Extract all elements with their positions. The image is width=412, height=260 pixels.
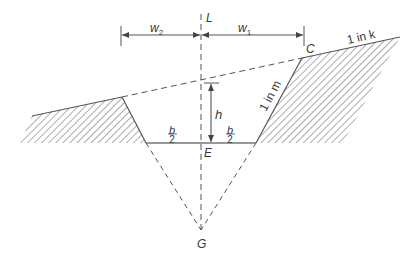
label-point-e: E	[204, 146, 213, 160]
label-point-g: G	[197, 237, 206, 251]
label-half-base-right-den: 2	[227, 134, 233, 145]
left-slope-extension	[146, 143, 201, 230]
label-w2: w2	[150, 21, 164, 37]
left-hatched-ground	[20, 97, 146, 143]
label-depth-h: h	[215, 107, 222, 122]
label-half-base-left-den: 2	[169, 134, 175, 145]
cutting-cross-section-diagram: L w2 w1 C 1 in k 1 in m h b 2 b 2 E G	[0, 0, 412, 260]
label-centreline-l: L	[206, 11, 213, 25]
label-w1: w1	[238, 21, 252, 37]
label-point-c: C	[306, 42, 315, 56]
